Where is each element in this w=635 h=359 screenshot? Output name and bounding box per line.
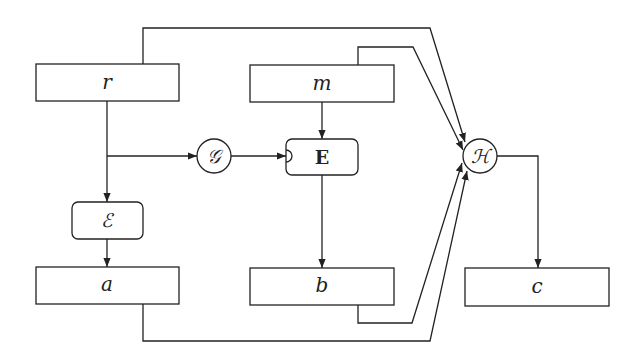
diagram-canvas: r m 𝒢 E ℋ ℰ a b c xyxy=(0,0,635,359)
edge-a-to-h xyxy=(143,171,467,341)
node-b: b xyxy=(250,268,394,305)
node-m-label: m xyxy=(313,71,332,95)
node-c-label: c xyxy=(531,274,542,298)
node-c: c xyxy=(465,268,609,306)
node-g: 𝒢 xyxy=(197,139,231,173)
node-a: a xyxy=(36,267,179,304)
node-a-label: a xyxy=(101,272,113,296)
node-h: ℋ xyxy=(463,139,497,173)
node-e: E xyxy=(286,139,358,175)
node-r: r xyxy=(36,64,179,101)
node-enc-label: ℰ xyxy=(101,209,115,231)
node-m: m xyxy=(250,65,394,102)
node-b-label: b xyxy=(316,273,329,297)
edge-h-to-c xyxy=(497,156,538,268)
node-r-label: r xyxy=(102,70,113,94)
node-enc: ℰ xyxy=(72,202,143,239)
node-h-label: ℋ xyxy=(471,145,493,167)
node-e-label: E xyxy=(315,146,329,168)
